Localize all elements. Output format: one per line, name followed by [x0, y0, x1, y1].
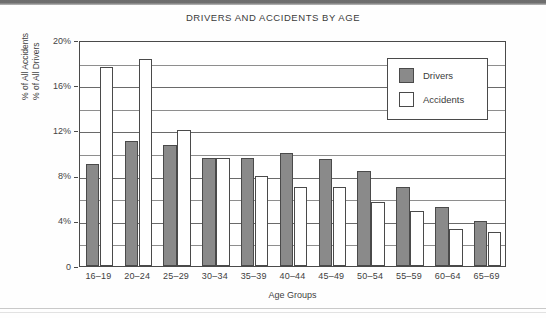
y-axis-tick-mark: [74, 222, 78, 223]
x-axis-tick-label: 45–49: [312, 271, 351, 281]
x-axis-tick-label: 20–24: [118, 271, 157, 281]
chart-legend: Drivers Accidents: [387, 58, 488, 120]
y-axis-tick-label: 16%: [41, 82, 71, 91]
y-axis-title: % of All Accidents % of All Drivers: [20, 0, 42, 100]
page-bottom-rule: [0, 308, 546, 309]
bar-accidents-16–19: [100, 67, 114, 266]
bar-accidents-60–64: [449, 229, 463, 266]
bar-accidents-35–39: [255, 176, 269, 266]
bar-drivers-30–34: [202, 158, 216, 267]
chart-page: DRIVERS AND ACCIDENTS BY AGE % of All Ac…: [0, 0, 546, 318]
y-axis-tick-label: 12%: [41, 127, 71, 136]
chart-title: DRIVERS AND ACCIDENTS BY AGE: [0, 12, 546, 23]
page-top-band: [0, 0, 546, 5]
y-axis-tick-mark: [74, 41, 78, 42]
bar-drivers-45–49: [319, 159, 333, 266]
bar-accidents-65–69: [488, 232, 502, 266]
x-axis-tick-label: 16–19: [79, 271, 118, 281]
bar-accidents-55–59: [410, 211, 424, 266]
legend-swatch-accidents-icon: [399, 92, 414, 107]
bar-drivers-40–44: [280, 153, 294, 266]
bar-drivers-20–24: [125, 141, 139, 266]
legend-label-drivers: Drivers: [423, 70, 453, 81]
x-axis-tick-label: 60–64: [428, 271, 467, 281]
bar-accidents-30–34: [216, 158, 230, 267]
y-axis-tick-mark: [74, 131, 78, 132]
x-axis-tick-label: 40–44: [273, 271, 312, 281]
y-axis-tick-mark: [74, 86, 78, 87]
bar-drivers-55–59: [396, 187, 410, 266]
legend-label-accidents: Accidents: [423, 94, 464, 105]
y-axis-tick-label: 4%: [41, 217, 71, 226]
bar-drivers-60–64: [435, 207, 449, 266]
bar-accidents-25–29: [177, 130, 191, 266]
bar-accidents-20–24: [139, 59, 153, 266]
bar-accidents-40–44: [294, 187, 308, 266]
bar-drivers-50–54: [357, 171, 371, 266]
y-axis-title-line-1: % of All Accidents: [20, 0, 31, 100]
bar-accidents-50–54: [371, 202, 385, 266]
y-axis-tick-mark: [74, 177, 78, 178]
page-bottom-rule-secondary: [0, 312, 546, 313]
x-axis-tick-label: 35–39: [234, 271, 273, 281]
bar-accidents-45–49: [333, 187, 347, 266]
bar-drivers-25–29: [163, 145, 177, 266]
bar-drivers-65–69: [474, 221, 488, 266]
x-axis-tick-label: 25–29: [157, 271, 196, 281]
bar-drivers-16–19: [86, 164, 100, 266]
x-axis-tick-label: 65–69: [467, 271, 506, 281]
legend-swatch-drivers-icon: [399, 68, 414, 83]
x-axis-title: Age Groups: [79, 290, 506, 300]
y-axis-tick-label: 0: [41, 263, 71, 272]
y-axis-tick-label: 20%: [41, 37, 71, 46]
x-axis-tick-label: 50–54: [351, 271, 390, 281]
y-axis-tick-label: 8%: [41, 172, 71, 181]
y-axis-tick-mark: [74, 267, 78, 268]
bar-drivers-35–39: [241, 158, 255, 267]
x-axis-tick-label: 30–34: [195, 271, 234, 281]
x-axis-tick-label: 55–59: [390, 271, 429, 281]
